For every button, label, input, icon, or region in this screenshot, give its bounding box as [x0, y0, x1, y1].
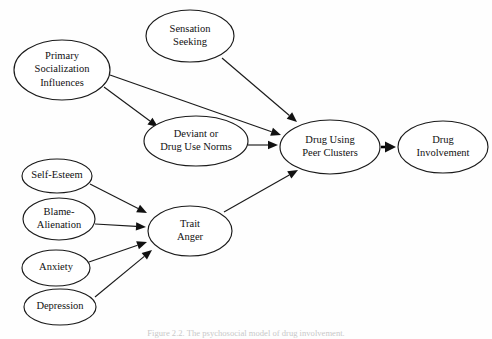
edge-sensation-to-peer-clusters-line — [222, 58, 289, 116]
edge-peer-clusters-to-involvement — [381, 142, 396, 153]
node-primary-socialization-influences-label: Socialization — [35, 63, 91, 74]
figure-container: PrimarySocializationInfluencesSensationS… — [0, 0, 492, 339]
edge-blame-alienation-to-trait-anger — [95, 222, 146, 230]
node-drug-using-peer-clusters-label: Peer Clusters — [302, 147, 358, 158]
edge-primary-to-peer-clusters-arrowhead-icon — [270, 128, 281, 136]
edge-peer-clusters-to-involvement-arrowhead-icon — [385, 142, 396, 153]
node-primary-socialization-influences-label: Primary — [45, 50, 80, 61]
node-drug-using-peer-clusters[interactable]: Drug UsingPeer Clusters — [280, 120, 380, 174]
node-sensation-seeking-label: Seeking — [173, 36, 208, 47]
edge-self-esteem-to-trait-anger-line — [90, 184, 138, 208]
node-self-esteem[interactable]: Self-Esteem — [22, 159, 92, 193]
node-blame-alienation[interactable]: Blame-Alienation — [23, 198, 95, 240]
node-trait-anger-label: Anger — [177, 231, 204, 242]
node-drug-using-peer-clusters-label: Drug Using — [305, 134, 355, 145]
edge-deviant-to-peer-clusters-arrowhead-icon — [268, 141, 278, 149]
node-deviant-or-drug-use-norms-label: Deviant or — [174, 128, 219, 139]
psychosocial-model-diagram: PrimarySocializationInfluencesSensationS… — [0, 0, 492, 339]
node-depression[interactable]: Depression — [24, 289, 96, 325]
edge-primary-to-deviant-line — [104, 87, 150, 121]
nodes-layer: PrimarySocializationInfluencesSensationS… — [14, 10, 488, 325]
edge-trait-anger-to-peer-clusters-arrowhead-icon — [287, 170, 298, 179]
node-deviant-or-drug-use-norms-label: Drug Use Norms — [160, 141, 232, 152]
node-primary-socialization-influences[interactable]: PrimarySocializationInfluences — [14, 40, 110, 100]
edge-sensation-to-peer-clusters — [222, 58, 297, 122]
edge-self-esteem-to-trait-anger — [90, 184, 147, 213]
edge-blame-alienation-to-trait-anger-line — [95, 224, 136, 226]
edge-trait-anger-to-peer-clusters-line — [224, 175, 289, 212]
node-drug-involvement-label: Drug — [432, 134, 454, 145]
edge-deviant-to-peer-clusters — [248, 141, 278, 149]
node-anxiety[interactable]: Anxiety — [22, 250, 90, 286]
edge-anxiety-to-trait-anger-line — [89, 245, 138, 262]
edge-blame-alienation-to-trait-anger-arrowhead-icon — [136, 222, 146, 230]
node-trait-anger[interactable]: TraitAnger — [148, 206, 232, 256]
edge-depression-to-trait-anger-arrowhead-icon — [142, 250, 152, 260]
node-drug-involvement-label: Involvement — [416, 147, 469, 158]
node-drug-involvement[interactable]: DrugInvolvement — [398, 121, 488, 173]
edges-layer — [89, 58, 396, 297]
node-self-esteem-label: Self-Esteem — [31, 169, 82, 180]
node-blame-alienation-label: Alienation — [37, 219, 82, 230]
edge-anxiety-to-trait-anger-arrowhead-icon — [136, 241, 147, 249]
edge-anxiety-to-trait-anger — [89, 241, 147, 262]
figure-caption: Figure 2.2. The psychosocial model of dr… — [0, 327, 492, 339]
node-depression-label: Depression — [36, 300, 84, 311]
node-trait-anger-label: Trait — [180, 218, 200, 229]
edge-depression-to-trait-anger-line — [95, 256, 144, 297]
node-blame-alienation-label: Blame- — [44, 206, 75, 217]
node-sensation-seeking[interactable]: SensationSeeking — [146, 10, 234, 62]
node-deviant-or-drug-use-norms[interactable]: Deviant orDrug Use Norms — [144, 116, 248, 166]
edge-primary-to-deviant — [104, 87, 158, 127]
node-anxiety-label: Anxiety — [39, 261, 74, 272]
node-primary-socialization-influences-label: Influences — [40, 77, 84, 88]
edge-trait-anger-to-peer-clusters — [224, 170, 298, 212]
node-sensation-seeking-label: Sensation — [170, 23, 212, 34]
